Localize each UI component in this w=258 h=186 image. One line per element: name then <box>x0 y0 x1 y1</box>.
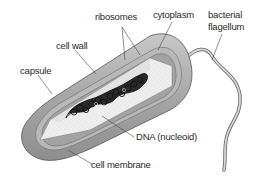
label-ribosomes: ribosomes <box>95 11 137 22</box>
label-bacterial: bacterial <box>208 9 242 20</box>
label-capsule: capsule <box>20 65 51 76</box>
label-flagellum: flagellum <box>208 21 244 32</box>
flagellum <box>186 49 240 170</box>
label-cell-wall: cell wall <box>56 40 87 51</box>
bacterial-cell-diagram: ribosomes cytoplasm bacterial flagellum … <box>0 0 258 186</box>
label-cell-membrane: cell membrane <box>91 159 151 170</box>
label-cytoplasm: cytoplasm <box>153 9 194 20</box>
label-dna-nucleoid: DNA (nucleoid) <box>136 131 197 142</box>
